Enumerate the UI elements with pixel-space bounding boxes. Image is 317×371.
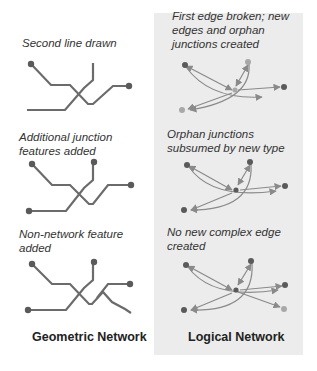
orphan-junction-icon — [179, 107, 185, 113]
junction-icon — [248, 258, 254, 264]
junction-icon — [247, 159, 253, 165]
junction-icon — [233, 187, 238, 192]
junction-icon — [91, 159, 97, 165]
junction-icon — [233, 287, 238, 292]
network-diagram — [0, 0, 317, 371]
junction-icon — [181, 207, 187, 213]
geometric-step-2-drawing — [29, 162, 130, 211]
junction-icon — [282, 282, 288, 288]
junction-icon — [184, 162, 190, 168]
junction-icon — [183, 262, 189, 268]
junction-icon — [182, 62, 188, 68]
junction-icon — [28, 61, 34, 67]
junction-icon — [127, 281, 133, 287]
logical-step-1-nodes — [179, 59, 287, 113]
geometric-step-1-drawing — [27, 63, 128, 110]
geometric-step-3-drawing — [28, 262, 131, 313]
junction-icon — [26, 208, 32, 214]
junction-icon — [181, 307, 187, 313]
geometric-step-2-nodes — [26, 159, 134, 214]
junction-icon — [282, 183, 288, 189]
junction-icon — [128, 182, 134, 188]
orphan-junction-icon — [232, 87, 237, 92]
junction-icon — [91, 259, 97, 265]
junction-icon — [281, 84, 287, 90]
orphan-junction-icon — [245, 59, 251, 65]
logical-step-3-drawing — [188, 263, 282, 310]
logical-step-2-drawing — [189, 164, 281, 210]
logical-step-2-nodes — [181, 159, 288, 213]
junction-icon — [25, 307, 31, 313]
orphan-junction-icon — [281, 306, 287, 312]
junction-icon — [126, 83, 132, 89]
logical-step-1-drawing — [186, 64, 280, 110]
junction-icon — [29, 161, 35, 167]
junction-icon — [29, 261, 35, 267]
